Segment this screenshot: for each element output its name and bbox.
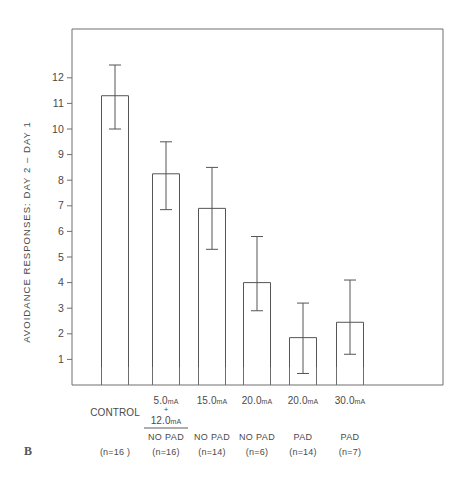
y-tick-label: 6 xyxy=(58,225,64,237)
category-pad-label: NO PAD xyxy=(239,432,275,442)
y-tick-label: 10 xyxy=(52,123,64,135)
current-unit: mA xyxy=(171,418,182,425)
category-sample-size: (n=7) xyxy=(339,447,361,457)
current-unit: mA xyxy=(308,398,319,405)
y-axis-title: AVOIDANCE RESPONSES: DAY 2 – DAY 1 xyxy=(21,121,32,343)
category-name: CONTROL xyxy=(90,407,140,418)
current-unit: mA xyxy=(168,398,179,405)
y-tick-label: 9 xyxy=(58,148,64,160)
figure-panel-b: 123456789101112 AVOIDANCE RESPONSES: DAY… xyxy=(0,0,464,481)
category-sample-size: (n=14) xyxy=(289,447,316,457)
y-tick-label: 11 xyxy=(53,97,64,109)
category-sample-size: (n=6) xyxy=(246,447,268,457)
category-sample-size: (n=14) xyxy=(198,447,225,457)
avoidance-response-bar-chart: 123456789101112 AVOIDANCE RESPONSES: DAY… xyxy=(0,0,464,481)
y-tick-label: 2 xyxy=(58,327,64,339)
category-pad-label: NO PAD xyxy=(194,432,230,442)
category-pad-label: PAD xyxy=(293,432,312,442)
category-plus-sign: + xyxy=(164,405,169,414)
current-unit: mA xyxy=(262,398,273,405)
category-pad-label: NO PAD xyxy=(148,432,184,442)
panel-label: B xyxy=(24,444,32,458)
y-tick-label: 3 xyxy=(58,302,64,314)
y-tick-label: 8 xyxy=(58,174,64,186)
category-pad-label: PAD xyxy=(340,432,359,442)
current-unit: mA xyxy=(355,398,366,405)
category-sample-size: (n=16 ) xyxy=(100,447,130,457)
y-tick-label: 1 xyxy=(58,353,64,365)
y-tick-label: 5 xyxy=(58,251,64,263)
current-unit: mA xyxy=(217,398,228,405)
category-sample-size: (n=16) xyxy=(152,447,179,457)
figure-background xyxy=(0,0,464,481)
y-tick-label: 7 xyxy=(58,199,64,211)
y-tick-label: 4 xyxy=(58,276,64,288)
y-tick-label: 12 xyxy=(52,71,64,83)
